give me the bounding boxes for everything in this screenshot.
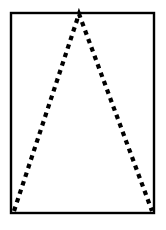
figure-canvas: Dashed triangle inscribed in a solid rec… [0,0,166,230]
geometry-svg [0,0,166,230]
outer-rectangle [11,13,154,213]
